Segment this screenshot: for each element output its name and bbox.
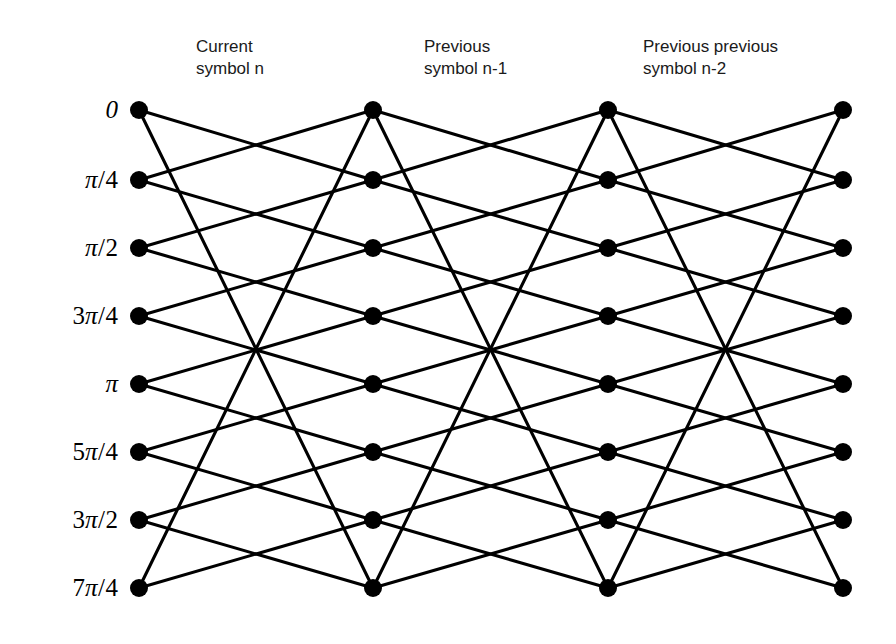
phase-numerator: 3 [73,506,86,533]
trellis-node [599,375,617,393]
phase-label-row-7: 7π/4 [73,574,118,602]
trellis-node [599,443,617,461]
trellis-node [599,511,617,529]
trellis-node [834,171,852,189]
phase-label-row-5: 5π/4 [73,438,118,466]
phase-numerator: 7 [73,574,86,601]
phase-label-row-2: π/2 [85,234,118,262]
trellis-node [130,101,148,119]
phase-denominator: 4 [106,166,119,193]
pi-symbol: π [85,438,98,465]
phase-label-row-0: 0 [106,96,119,124]
phase-numerator: 5 [73,438,86,465]
fraction-slash-icon: / [98,438,106,465]
trellis-node [364,579,382,597]
trellis-node [364,443,382,461]
phase-denominator: 2 [106,234,119,261]
phase-label-row-1: π/4 [85,166,118,194]
trellis-node [834,307,852,325]
phase-denominator: 4 [106,574,119,601]
trellis-node [834,443,852,461]
trellis-node [364,171,382,189]
trellis-node [130,511,148,529]
trellis-node [130,443,148,461]
phase-label-text: 0 [106,96,119,123]
pi-symbol: π [85,166,98,193]
trellis-node [834,579,852,597]
trellis-node [364,511,382,529]
trellis-node [130,375,148,393]
trellis-node [130,171,148,189]
phase-numerator: 3 [73,302,86,329]
trellis-node [834,511,852,529]
trellis-node [834,239,852,257]
phase-denominator: 4 [106,438,119,465]
phase-label-row-4: π [105,370,118,398]
trellis-node [599,101,617,119]
trellis-node [834,375,852,393]
pi-symbol: π [85,234,98,261]
phase-label-row-3: 3π/4 [73,302,118,330]
trellis-node [599,579,617,597]
trellis-node [599,239,617,257]
trellis-node [130,307,148,325]
pi-symbol: π [105,370,118,397]
trellis-node [364,307,382,325]
fraction-slash-icon: / [98,302,106,329]
column-header-col-previous: Previous symbol n-1 [424,36,507,81]
trellis-graph [0,0,896,644]
phase-denominator: 4 [106,302,119,329]
pi-symbol: π [85,506,98,533]
fraction-slash-icon: / [98,506,106,533]
trellis-node [130,239,148,257]
column-header-col-current: Current symbol n [196,36,264,81]
fraction-slash-icon: / [98,574,106,601]
trellis-node [599,307,617,325]
trellis-node [364,375,382,393]
trellis-edges [139,110,843,588]
trellis-node [364,101,382,119]
column-header-col-previous-previous: Previous previous symbol n-2 [643,36,778,81]
trellis-node [599,171,617,189]
phase-denominator: 2 [106,506,119,533]
trellis-node [364,239,382,257]
trellis-node [834,101,852,119]
trellis-diagram: Current symbol nPrevious symbol n-1Previ… [0,0,896,644]
trellis-node [130,579,148,597]
pi-symbol: π [85,574,98,601]
phase-label-row-6: 3π/2 [73,506,118,534]
pi-symbol: π [85,302,98,329]
